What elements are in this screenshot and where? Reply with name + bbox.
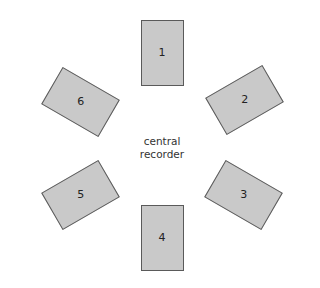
center-label-line-2: recorder [132,148,192,161]
unit-label: 4 [152,231,172,245]
unit-5: 5 [41,159,120,229]
center-label-line-1: central [132,135,192,148]
unit-label: 6 [70,95,90,109]
central-recorder-label: central recorder [132,135,192,161]
unit-2: 2 [205,65,284,135]
unit-label: 2 [234,93,254,107]
unit-1: 1 [141,20,184,86]
unit-label: 1 [152,46,172,60]
unit-label: 3 [233,188,253,202]
unit-3: 3 [204,160,283,230]
unit-6: 6 [41,66,120,136]
unit-4: 4 [141,205,184,271]
unit-label: 5 [70,188,90,202]
